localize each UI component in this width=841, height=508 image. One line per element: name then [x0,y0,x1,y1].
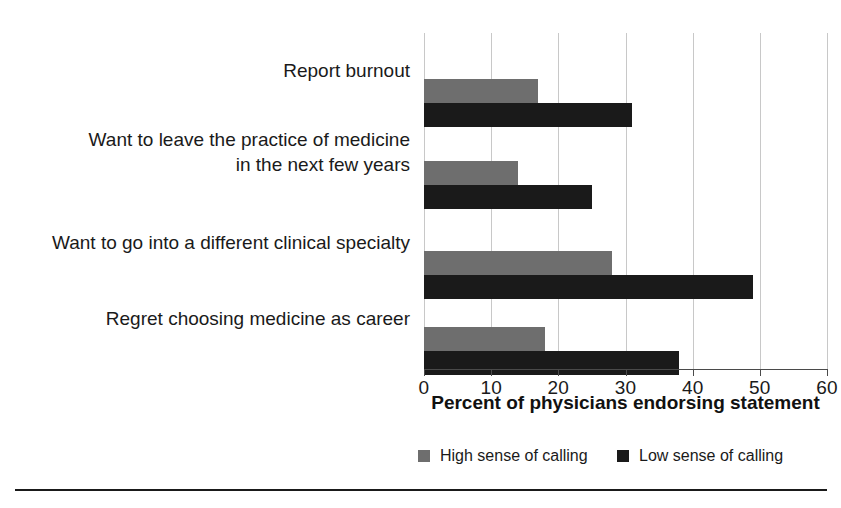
category-label-line: Report burnout [0,58,410,83]
bar-high-3 [424,327,545,351]
legend-label: Low sense of calling [639,447,783,465]
category-label: Report burnout [0,58,410,83]
x-axis-title: Percent of physicians endorsing statemen… [424,392,827,414]
bar-high-1 [424,161,518,185]
bar-group [424,251,827,299]
category-label-line: Want to go into a different clinical spe… [0,230,410,255]
x-tick-60 [827,369,828,376]
bar-low-1 [424,185,592,209]
bar-high-0 [424,79,538,103]
legend-item-1: Low sense of calling [617,447,783,465]
category-label: Want to leave the practice of medicinein… [0,127,410,177]
bar-group [424,161,827,209]
x-tick-40 [693,369,694,376]
x-tick-30 [626,369,627,376]
x-tick-20 [558,369,559,376]
x-tick-50 [760,369,761,376]
bar-chart-figure: 0102030405060 Report burnoutWant to leav… [0,0,841,508]
legend-swatch-icon [418,450,430,462]
x-tick-0 [424,369,425,376]
bar-high-2 [424,251,612,275]
category-label: Regret choosing medicine as career [0,306,410,331]
category-label-line: Regret choosing medicine as career [0,306,410,331]
legend-label: High sense of calling [440,447,588,465]
legend-swatch-icon [617,450,629,462]
bar-group [424,327,827,375]
bar-group [424,79,827,127]
category-label-line: Want to leave the practice of medicine [0,127,410,152]
category-label: Want to go into a different clinical spe… [0,230,410,255]
x-tick-10 [491,369,492,376]
bar-low-2 [424,275,753,299]
chart-legend: High sense of callingLow sense of callin… [0,447,841,469]
bar-low-3 [424,351,679,375]
bar-low-0 [424,103,632,127]
bottom-divider [15,489,827,491]
gridline-60 [827,33,828,369]
legend-item-0: High sense of calling [418,447,588,465]
plot-area [424,33,827,369]
category-label-line: in the next few years [0,152,410,177]
